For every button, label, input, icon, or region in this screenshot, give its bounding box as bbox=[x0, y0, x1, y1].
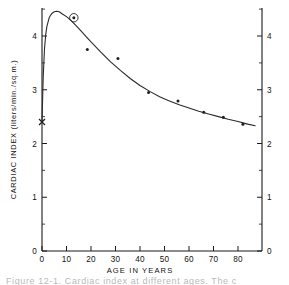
cardiac-index-chart: 001122334401020304050607080AGE IN YEARSC… bbox=[0, 0, 289, 285]
y-tick-label-left: 2 bbox=[32, 140, 37, 149]
data-point bbox=[72, 16, 75, 19]
figure-container: 001122334401020304050607080AGE IN YEARSC… bbox=[0, 0, 289, 285]
axes-layer bbox=[42, 8, 262, 251]
x-tick-label: 0 bbox=[40, 255, 45, 264]
y-tick-label-right: 0 bbox=[267, 247, 272, 256]
data-point bbox=[147, 91, 150, 94]
y-tick-label-right: 1 bbox=[267, 193, 272, 202]
figure-caption: Figure 12-1. Cardiac index at different … bbox=[0, 275, 289, 285]
labels-layer: 001122334401020304050607080AGE IN YEARSC… bbox=[9, 32, 272, 275]
curve-layer bbox=[42, 11, 255, 125]
x-tick-label: 10 bbox=[62, 255, 72, 264]
y-tick-label-left: 1 bbox=[32, 193, 37, 202]
data-point bbox=[116, 57, 119, 60]
x-tick-label: 60 bbox=[184, 255, 194, 264]
x-axis-title: AGE IN YEARS bbox=[107, 266, 174, 275]
y-tick-label-right: 4 bbox=[267, 32, 272, 41]
data-point bbox=[176, 100, 179, 103]
x-tick-label: 80 bbox=[233, 255, 243, 264]
x-tick-label: 40 bbox=[135, 255, 145, 264]
x-tick-label: 30 bbox=[111, 255, 121, 264]
data-point bbox=[202, 111, 205, 114]
y-tick-label-left: 0 bbox=[32, 247, 37, 256]
points-layer bbox=[39, 14, 244, 126]
y-tick-label-left: 4 bbox=[32, 32, 37, 41]
x-tick-label: 70 bbox=[209, 255, 219, 264]
x-tick-label: 50 bbox=[160, 255, 170, 264]
y-tick-label-left: 3 bbox=[32, 86, 37, 95]
data-point bbox=[86, 48, 89, 51]
data-point bbox=[241, 123, 244, 126]
fitted-curve bbox=[42, 11, 255, 125]
x-tick-label: 20 bbox=[86, 255, 96, 264]
y-axis-title: CARDIAC INDEX (liters/min./sq.m.) bbox=[9, 60, 18, 200]
y-tick-label-right: 3 bbox=[267, 86, 272, 95]
y-tick-label-right: 2 bbox=[267, 140, 272, 149]
data-point bbox=[222, 116, 225, 119]
